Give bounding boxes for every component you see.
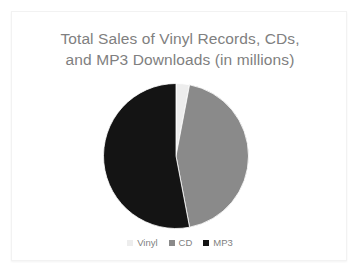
legend-label-cd: CD [179, 237, 193, 248]
legend-item-mp3[interactable]: MP3 [203, 237, 233, 248]
legend-label-vinyl: Vinyl [137, 237, 157, 248]
plot-area [12, 12, 347, 261]
pie-chart [103, 83, 249, 229]
pie-slice-group [104, 83, 249, 228]
pie-slice-cd[interactable] [176, 85, 249, 227]
chart-legend: Vinyl CD MP3 [12, 237, 347, 248]
legend-item-cd[interactable]: CD [169, 237, 193, 248]
legend-item-vinyl[interactable]: Vinyl [127, 237, 157, 248]
chart-slide: Total Sales of Vinyl Records, CDs, and M… [11, 11, 347, 261]
legend-swatch-vinyl-square-marker [127, 240, 133, 246]
legend-label-mp3: MP3 [213, 237, 233, 248]
legend-swatch-cd-square-marker [169, 240, 175, 246]
legend-swatch-mp3-square-marker [203, 240, 209, 246]
